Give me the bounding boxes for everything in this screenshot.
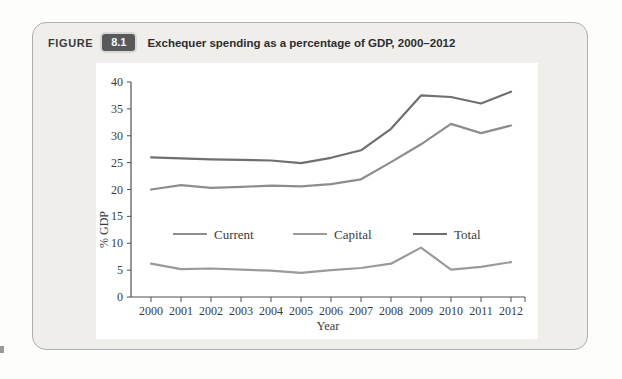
legend-label-total: Total	[454, 227, 481, 242]
y-tick-label: 25	[111, 156, 123, 170]
x-tick-label: 2012	[499, 304, 523, 318]
figure-header: FIGURE 8.1 Exchequer spending as a perce…	[48, 34, 577, 51]
legend-label-current: Current	[214, 227, 254, 242]
y-tick-label: 15	[111, 209, 123, 223]
x-tick-label: 2001	[169, 304, 193, 318]
x-tick-label: 2011	[469, 304, 493, 318]
x-axis-title: Year	[316, 319, 340, 333]
y-tick-label: 40	[111, 75, 123, 89]
y-tick-label: 5	[117, 263, 123, 277]
x-tick-label: 2004	[259, 304, 283, 318]
scan-artifact	[0, 346, 4, 353]
x-tick-label: 2005	[289, 304, 313, 318]
figure-number-badge: 8.1	[102, 34, 135, 51]
x-tick-label: 2008	[379, 304, 403, 318]
document-page: FIGURE 8.1 Exchequer spending as a perce…	[0, 0, 622, 379]
y-tick-label: 30	[111, 129, 123, 143]
x-tick-label: 2000	[139, 304, 163, 318]
line-chart: 0510152025303540200020012002200320042005…	[96, 63, 538, 339]
x-tick-label: 2002	[199, 304, 223, 318]
y-tick-label: 10	[111, 236, 123, 250]
chart-container: 0510152025303540200020012002200320042005…	[96, 63, 538, 339]
x-tick-label: 2006	[319, 304, 343, 318]
figure-title: Exchequer spending as a percentage of GD…	[147, 37, 455, 49]
legend-label-capital: Capital	[334, 227, 372, 242]
figure-label: FIGURE	[48, 37, 93, 49]
figure-panel: FIGURE 8.1 Exchequer spending as a perce…	[32, 22, 588, 350]
series-line-total	[151, 92, 511, 164]
x-tick-label: 2010	[439, 304, 463, 318]
y-tick-label: 0	[117, 290, 123, 304]
y-tick-label: 20	[111, 183, 123, 197]
series-line-capital	[151, 248, 511, 273]
y-axis-title: % GDP	[97, 211, 111, 248]
y-tick-label: 35	[111, 102, 123, 116]
x-tick-label: 2003	[229, 304, 253, 318]
x-tick-label: 2007	[349, 304, 373, 318]
x-tick-label: 2009	[409, 304, 433, 318]
